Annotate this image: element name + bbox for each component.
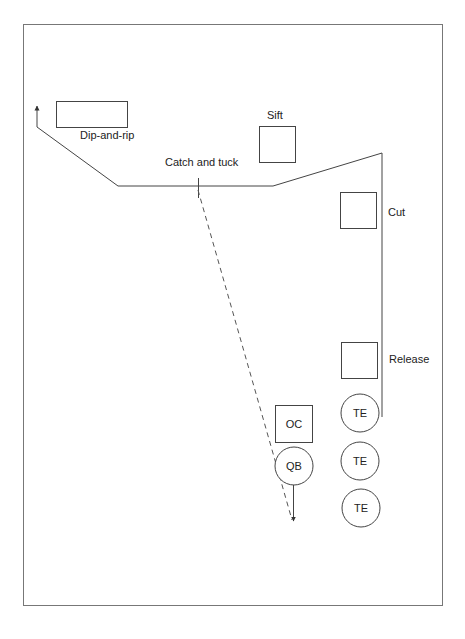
release-label: Release	[389, 353, 429, 365]
sift-box	[260, 127, 296, 163]
catch-and-tuck-label: Catch and tuck	[165, 156, 239, 168]
sift-label: Sift	[267, 109, 283, 121]
te3-label: TE	[354, 502, 368, 514]
diagram-frame	[24, 25, 443, 606]
oc-label: OC	[286, 418, 303, 430]
dip-and-rip-label: Dip-and-rip	[80, 129, 134, 141]
dip-and-rip-box	[57, 102, 128, 128]
te-route-line	[37, 106, 382, 417]
play-diagram: Dip-and-rip Sift Catch and tuck Cut Rele…	[0, 0, 465, 639]
te2-label: TE	[353, 455, 367, 467]
qb-label: QB	[286, 460, 302, 472]
cut-box	[341, 193, 377, 229]
cut-label: Cut	[388, 206, 405, 218]
te1-label: TE	[353, 407, 367, 419]
release-box	[342, 343, 378, 379]
